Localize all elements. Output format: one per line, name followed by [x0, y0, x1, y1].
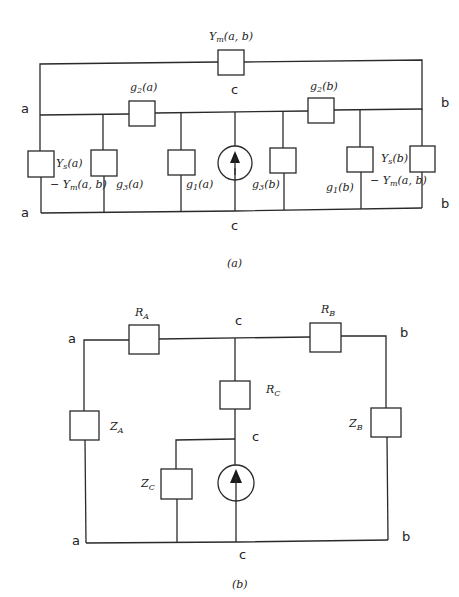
g2a-admittance-box: [129, 101, 155, 126]
label-ra: RA: [134, 306, 149, 321]
label-rc: RC: [265, 383, 280, 398]
wire-bottom-rail: [41, 208, 422, 213]
node-a-bottom: a: [72, 533, 80, 548]
ysa-admittance-box: [28, 151, 54, 177]
label-g1a: g1(a): [186, 178, 213, 192]
node-a-top: a: [21, 101, 29, 116]
label-ysb-minus-ym: − Ym(a, b): [370, 174, 427, 188]
g3b-admittance-box: [270, 148, 296, 173]
label-g2a: g2(a): [130, 81, 157, 95]
zb-impedance-box: [371, 408, 401, 437]
g1a-admittance-box: [168, 150, 195, 175]
label-ysa-minus-ym: − Ym(a, b): [50, 178, 107, 192]
diagram-b: a a b b c c c RA RB RC ZA ZB ZC (b): [68, 303, 410, 591]
circuit-figure: a a b b c c Ym(a, b) g2(a) g2(b) Ys(a) −…: [0, 0, 459, 597]
label-zb: ZB: [348, 417, 363, 432]
g1b-admittance-box: [347, 147, 373, 172]
ysb-admittance-box: [410, 146, 435, 172]
wire-mid-rail-right: [333, 109, 422, 110]
node-b-bottom: b: [402, 529, 410, 544]
ym-admittance-box: [218, 50, 244, 75]
label-g2b: g2(b): [310, 80, 338, 94]
wire-bottom-rail: [86, 540, 388, 543]
wire-mid-rail-left: [40, 114, 129, 115]
wire-mid-rail-center: [155, 111, 308, 113]
zc-impedance-box: [161, 469, 192, 499]
caption-b: (b): [232, 578, 248, 591]
label-g3a: g3(a): [116, 178, 143, 192]
wire-zc-top: [176, 439, 235, 469]
node-c-mid: c: [252, 429, 259, 444]
caption-a: (a): [227, 257, 242, 270]
label-ysb: Ys(b): [381, 152, 408, 166]
wire-left-lower: [85, 440, 86, 543]
rc-resistor-box: [220, 381, 250, 409]
g2b-admittance-box: [308, 98, 334, 123]
node-a-bottom: a: [21, 205, 29, 220]
current-source-icon-a: [218, 112, 252, 211]
label-zc: ZC: [140, 477, 155, 492]
ra-resistor-box: [129, 325, 159, 354]
diagram-a: a a b b c c Ym(a, b) g2(a) g2(b) Ys(a) −…: [21, 30, 449, 270]
node-b-bottom: b: [441, 196, 449, 211]
za-impedance-box: [70, 411, 99, 440]
label-ym: Ym(a, b): [209, 30, 253, 44]
wire-top-right: [341, 336, 386, 408]
rb-resistor-box: [310, 323, 341, 352]
label-rb: RB: [320, 303, 335, 318]
node-c-bottom: c: [231, 218, 238, 233]
label-za: ZA: [109, 420, 124, 435]
node-b-top: b: [400, 325, 408, 340]
wire-top-left: [84, 340, 129, 411]
node-c-bottom: c: [239, 547, 246, 562]
node-c-top: c: [231, 82, 238, 97]
node-c-top: c: [235, 313, 242, 328]
node-b-top: b: [441, 95, 449, 110]
label-ysa: Ys(a): [56, 157, 83, 171]
g3a-admittance-box: [91, 150, 117, 176]
current-source-icon-b: [218, 465, 254, 542]
wire-right-lower: [387, 437, 388, 540]
label-g3b: g3(b): [252, 178, 280, 192]
node-a-top: a: [68, 331, 76, 346]
label-g1b: g1(b): [326, 181, 354, 195]
